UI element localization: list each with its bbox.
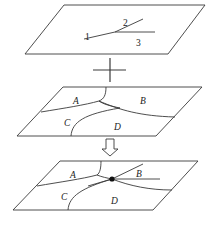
label-region-d: D	[110, 196, 118, 206]
label-region-b: B	[136, 169, 142, 179]
boundary-b-d	[112, 179, 172, 190]
boundary-c-d	[68, 179, 112, 210]
label-region-c: C	[61, 192, 68, 202]
overlay-line-1	[88, 179, 112, 186]
plus-icon	[93, 58, 126, 82]
label-region-b: B	[140, 96, 146, 106]
label-region-a: A	[69, 170, 76, 180]
panel-region-layer: A B C D	[17, 87, 202, 136]
label-line-1: 1	[85, 32, 90, 42]
boundary-a-c	[41, 101, 99, 112]
boundary-a-b	[97, 161, 101, 175]
down-arrow-icon	[102, 139, 118, 156]
panel-line-layer: 1 2 3	[25, 5, 205, 54]
plane-outline	[25, 5, 205, 54]
label-region-c: C	[64, 118, 71, 128]
overlay-diagram: 1 2 3 A B C D A B C D	[0, 0, 213, 226]
boundary-b-d	[99, 101, 175, 117]
label-region-a: A	[72, 96, 79, 106]
label-line-3: 3	[136, 38, 141, 48]
boundary-c-d	[71, 108, 120, 136]
panel-overlay-result: A B C D	[13, 161, 198, 210]
line-2	[115, 19, 143, 32]
boundary-a-b	[99, 87, 106, 101]
boundary-a-c	[37, 175, 97, 186]
intersection-node	[109, 176, 114, 181]
label-line-2: 2	[123, 18, 128, 28]
label-region-d: D	[113, 122, 121, 132]
